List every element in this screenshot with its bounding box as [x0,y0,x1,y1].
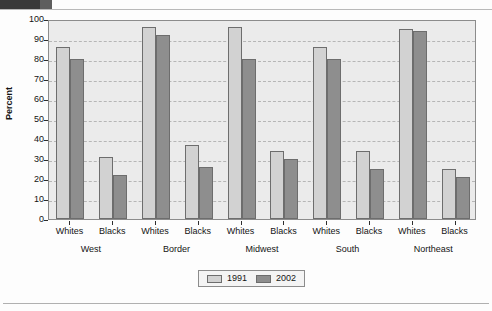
bar-2002-west-whites [70,59,84,219]
y-axis-tick-label: 60 [22,95,44,104]
x-axis-tick-labels: WhitesBlacksWhitesBlacksWhitesBlacksWhit… [48,226,476,240]
legend-label-2002: 2002 [276,274,296,283]
y-axis-tick-label: 10 [22,195,44,204]
bar-chart-figure: Percent 1009080706050403020100 WhitesBla… [0,12,492,302]
bar-1991-midwest-blacks [270,151,284,219]
y-axis-tick-mark [44,220,48,221]
y-axis-tick-label: 70 [22,75,44,84]
bar-2002-northeast-blacks [456,177,470,219]
x-axis-tick-mark [241,221,242,225]
y-axis-tick-label: 90 [22,35,44,44]
bar-series-container [49,21,475,219]
bar-2002-south-whites [327,59,341,219]
group-label-midwest: Midwest [222,244,302,254]
y-axis-tick-label: 50 [22,115,44,124]
group-label-west: West [51,244,131,254]
bar-2002-midwest-whites [242,59,256,219]
group-label-south: South [308,244,388,254]
bar-2002-midwest-blacks [284,159,298,219]
legend-item-2002: 2002 [256,274,296,283]
bar-1991-border-blacks [185,145,199,219]
page-background: Percent 1009080706050403020100 WhitesBla… [0,0,492,311]
x-axis-tick-mark [283,221,284,225]
x-axis-tick-mark [112,221,113,225]
page-rule-bottom [3,303,489,304]
y-axis-tick-label: 40 [22,135,44,144]
bar-2002-west-blacks [113,175,127,219]
x-axis-tick-mark [369,221,370,225]
bar-1991-northeast-blacks [442,169,456,219]
x-axis-group-labels: WestBorderMidwestSouthNortheast [48,244,476,258]
legend-label-1991: 1991 [227,274,247,283]
plot-area [48,20,476,220]
scan-corner-marker-edge [40,0,52,9]
y-axis-tick-label: 100 [22,15,44,24]
legend-swatch-2002-icon [256,275,271,283]
scan-corner-marker [0,0,40,9]
y-axis-tick-label: 20 [22,175,44,184]
bar-1991-south-blacks [356,151,370,219]
legend-item-1991: 1991 [207,274,247,283]
y-axis-tick-label: 0 [22,215,44,224]
y-axis-tick-label: 80 [22,55,44,64]
bar-1991-northeast-whites [399,29,413,219]
x-axis-tick-mark [198,221,199,225]
page-rule-top [0,9,492,10]
x-axis-tick-mark [455,221,456,225]
bar-2002-border-blacks [199,167,213,219]
bar-1991-west-blacks [99,157,113,219]
y-axis-title: Percent [4,106,14,120]
bar-1991-border-whites [142,27,156,219]
x-axis-tick-mark [155,221,156,225]
legend-swatch-1991-icon [207,275,222,283]
x-axis-tick-mark [412,221,413,225]
group-label-border: Border [136,244,216,254]
x-axis-label-northeast-blacks: Blacks [425,226,485,236]
chart-legend: 1991 2002 [198,270,305,287]
y-axis-tick-label: 30 [22,155,44,164]
bar-2002-south-blacks [370,169,384,219]
bar-1991-midwest-whites [228,27,242,219]
x-axis-tick-mark [326,221,327,225]
y-axis-tick-labels: 1009080706050403020100 [18,20,44,220]
bar-1991-west-whites [56,47,70,219]
bar-1991-south-whites [313,47,327,219]
bar-2002-northeast-whites [413,31,427,219]
bar-2002-border-whites [156,35,170,219]
x-axis-tick-mark [69,221,70,225]
group-label-northeast: Northeast [393,244,473,254]
